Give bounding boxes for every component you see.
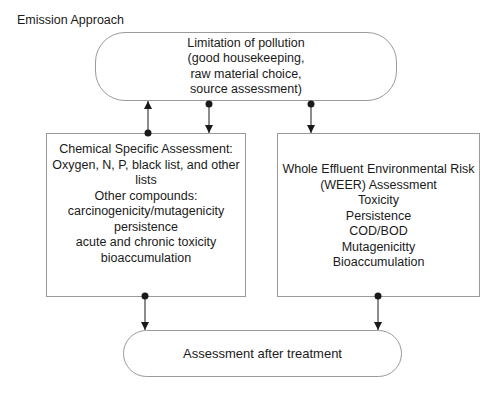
arrowhead-icon (205, 125, 213, 133)
edge-top-to-left (205, 101, 213, 134)
arrowhead-icon (144, 101, 152, 109)
arrowhead-icon (141, 322, 149, 330)
dot-icon (308, 101, 315, 108)
edge-left-to-bottom (141, 293, 149, 331)
arrowhead-icon (307, 125, 315, 133)
arrowhead-icon (374, 322, 382, 330)
edge-right-to-bottom (374, 293, 382, 331)
dot-icon (375, 293, 382, 300)
dot-icon (142, 293, 149, 300)
edge-left-to-top (144, 101, 152, 137)
edge-top-to-right (307, 101, 315, 134)
connectors (0, 0, 503, 398)
dot-icon (145, 130, 152, 137)
dot-icon (206, 101, 213, 108)
